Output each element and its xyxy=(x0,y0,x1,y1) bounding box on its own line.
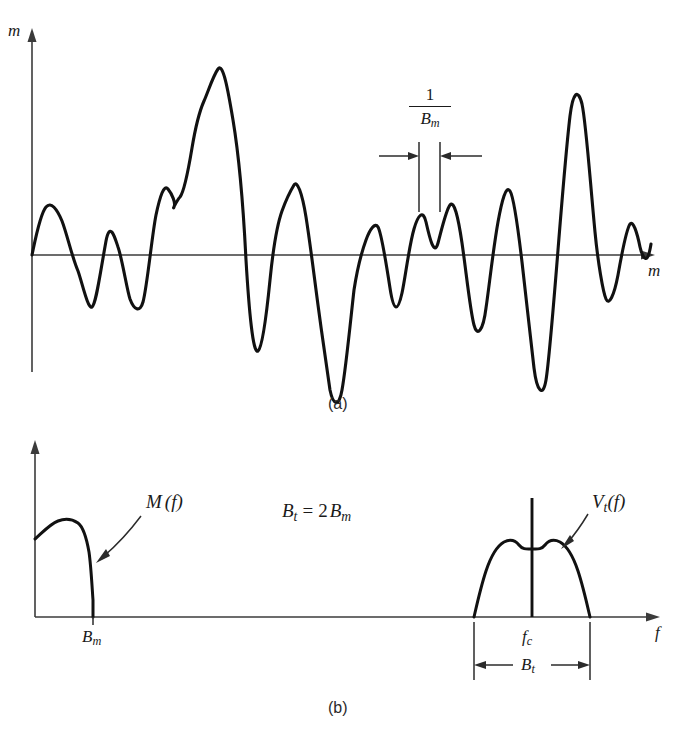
panel-b-caption: (b) xyxy=(328,700,348,716)
interval-fraction-numerator: 1 xyxy=(409,85,451,106)
message-waveform xyxy=(32,68,651,402)
tick-label-bm: Bm xyxy=(82,628,101,648)
interval-fraction-denominator: Bm xyxy=(409,107,451,131)
panel-b-y-axis-arrowhead xyxy=(31,440,40,454)
panel-a-caption: (a) xyxy=(328,396,348,412)
bandwidth-arrow-left-head xyxy=(474,661,486,669)
baseband-label-leader-head xyxy=(96,549,110,563)
panel-b-group xyxy=(31,440,661,680)
bandwidth-arrow-right-head xyxy=(578,661,590,669)
interval-arrow-right-head xyxy=(440,152,451,160)
baseband-label-leader xyxy=(104,516,141,556)
baseband-spectrum-label: M(f) xyxy=(146,492,183,511)
panel-a-x-axis-label: m xyxy=(648,262,660,279)
figure-canvas xyxy=(0,0,685,737)
panel-a-y-axis-arrowhead xyxy=(28,28,37,42)
interval-fraction-1-over-bm: 1 Bm xyxy=(409,85,451,131)
bandwidth-equation: Bt=2Bm xyxy=(282,501,351,524)
bandwidth-label-bt: Bt xyxy=(521,656,535,676)
bandpass-spectrum-label: Vt(f) xyxy=(592,492,625,515)
figure-root: m m 1 Bm (a) M(f) Vt(f) Bt=2Bm Bm fc Bt … xyxy=(0,0,685,737)
panel-a-group xyxy=(28,28,656,402)
panel-b-x-axis-label: f xyxy=(655,624,660,641)
panel-a-y-axis-label: m xyxy=(8,22,20,39)
interval-arrow-left-head xyxy=(408,152,419,160)
panel-b-x-axis-arrowhead xyxy=(646,613,660,622)
tick-label-fc: fc xyxy=(522,628,532,648)
baseband-spectrum-curve xyxy=(35,519,93,617)
